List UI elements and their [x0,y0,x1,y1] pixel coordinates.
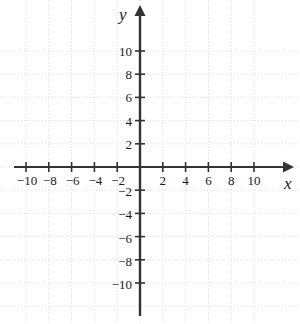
y-tick-label: −8 [118,254,132,267]
x-tick-label: 4 [182,174,189,187]
y-tick-label: −6 [118,231,132,244]
y-tick-label: 2 [126,137,133,150]
x-tick-label: −10 [17,174,37,187]
x-axis-arrow-icon [283,162,294,173]
y-tick-label: 8 [126,68,133,81]
y-tick-label: −10 [112,278,132,291]
x-tick-label: 6 [205,174,212,187]
x-tick-label: 2 [160,174,167,187]
y-axis-arrow-icon [135,5,146,16]
x-tick-label: 8 [228,174,235,187]
x-tick-label: −6 [66,174,80,187]
x-axis-label: x [284,175,292,192]
y-tick-label: 6 [126,91,133,104]
x-tick-label: 10 [248,174,261,187]
y-tick-label: −2 [118,185,132,198]
y-tick-label: 4 [126,114,133,127]
y-tick-label: 10 [119,45,132,58]
y-axis-label: y [119,6,127,23]
coordinate-plane-figure: −10−8−6−4−2246810108642−2−4−6−8−10 x y [0,0,300,324]
x-tick-label: −8 [43,174,57,187]
x-tick-label: −4 [88,174,102,187]
axes [0,0,300,324]
y-tick-label: −4 [118,208,132,221]
